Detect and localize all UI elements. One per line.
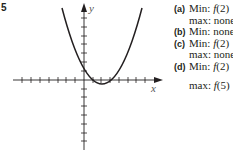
answer-a: (a)Min: f(2) [174,3,233,15]
parabola-graph: y x [0,0,172,155]
x-axis [13,77,156,83]
y-axis-arrow-icon [81,3,87,12]
answer-text: Min: [189,60,213,72]
answer-text: Min: [189,37,213,49]
parabola-curve [62,8,142,84]
answer-text: (2) [216,60,229,72]
answer-label: (d) [174,62,189,74]
answer-text: (2) [216,2,229,14]
answer-text: (5) [217,79,230,91]
answer-d-line2: max: f(5) [174,80,233,92]
y-axis-label: y [88,2,94,14]
answer-list: (a)Min: f(2) max: none (b)Min: none (c)M… [174,3,233,92]
answer-text: Min: [189,2,213,14]
answer-text: (2) [216,37,229,49]
answer-text: Min: none [189,25,233,37]
x-axis-label: x [150,82,156,94]
answer-text: max: [189,79,214,91]
answer-d: (d)Min: f(2) [174,61,233,73]
